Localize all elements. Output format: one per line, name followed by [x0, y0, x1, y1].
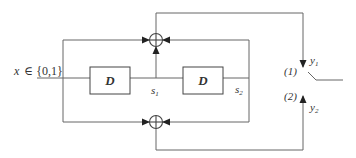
- input-set: ∈ {0,1}: [24, 64, 62, 78]
- state-s2-label: s2: [235, 83, 243, 97]
- switch-position-2-label: (2): [284, 90, 297, 103]
- input-var: x: [13, 64, 20, 78]
- output-y1-label: y1: [309, 54, 318, 68]
- delay-block-2-label: D: [197, 73, 208, 88]
- input-label: x ∈ {0,1}: [13, 64, 63, 78]
- delay-block-1-label: D: [104, 73, 115, 88]
- wire-y2-output: [156, 96, 303, 150]
- switch-arm: [308, 72, 343, 80]
- switch-position-1-label: (1): [284, 65, 297, 78]
- xor-bottom: [150, 116, 163, 129]
- output-y2-label: y2: [309, 101, 319, 115]
- state-s1-label: s1: [151, 84, 159, 98]
- xor-top: [150, 34, 163, 47]
- encoder-diagram: D D x ∈ {0,1} s1 s2 (1) (2) y1 y2: [0, 0, 356, 158]
